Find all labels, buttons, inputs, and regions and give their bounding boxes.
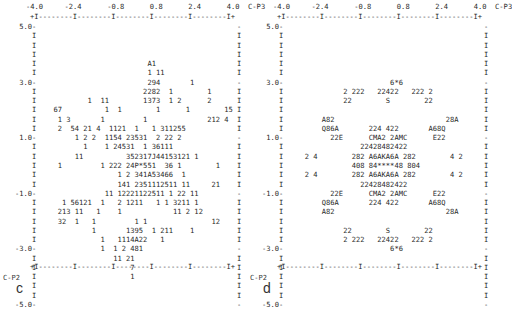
x-axis-ruler-top: +I--------I--------I--------I--------I--…	[277, 12, 482, 21]
x-axis-ruler-top: +I--------I--------I--------I--------I--…	[30, 12, 235, 21]
x-axis-ruler-bottom: +I--------I--------I--------I--------I--…	[277, 262, 482, 271]
x-axis-ruler-bottom: +I--------I--------I--------I--------I--…	[30, 262, 235, 271]
panel-letter: c	[16, 280, 23, 296]
panel-letter: d	[263, 280, 271, 296]
plot-panel-d: -4.0 -2.4 -0.8 0.8 2.4 4.0 C-P3 +I------…	[247, 0, 493, 294]
x-axis-tick-labels: -4.0 -2.4 -0.8 0.8 2.4 4.0 C-P3	[26, 2, 265, 11]
plot-panel-c: -4.0 -2.4 -0.8 0.8 2.4 4.0 C-P3 +I------…	[0, 0, 246, 294]
x-axis-tick-labels: -4.0 -2.4 -0.8 0.8 2.4 4.0 C-P3	[273, 2, 512, 11]
